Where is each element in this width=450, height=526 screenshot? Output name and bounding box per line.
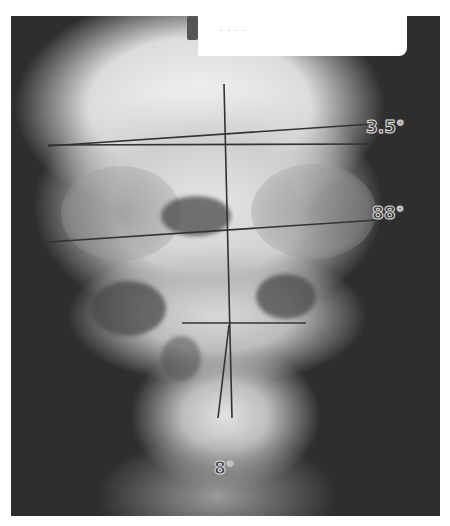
orbital-horizontal-line — [48, 144, 372, 145]
cephalometric-lines — [0, 0, 450, 526]
angle-label-lower: 8° — [214, 458, 234, 478]
angle-label-middle: 88° — [372, 203, 404, 223]
mandibular-midline — [218, 325, 229, 418]
orbital-angled-line — [48, 124, 372, 146]
zygomatic-line — [48, 220, 378, 242]
angle-label-upper: 3.5° — [366, 117, 405, 137]
